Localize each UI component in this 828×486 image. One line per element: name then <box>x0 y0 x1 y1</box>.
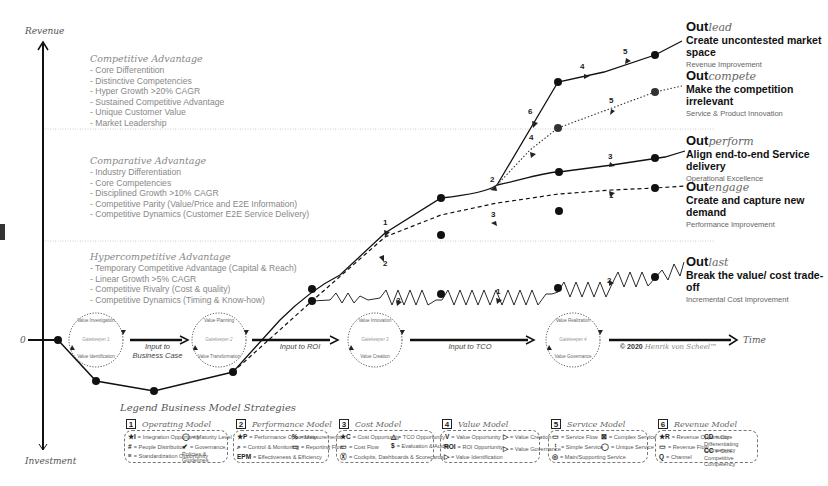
legend-item-text: = Value Opportunity <box>451 434 500 440</box>
people-icon: # <box>128 443 132 450</box>
value-creation-icon: ▷ <box>503 433 508 440</box>
marker-outlast-3: 3 <box>396 296 400 305</box>
flow-label-tco: Input to TCO <box>440 343 500 352</box>
strategy-headline: Make the competition irrelevant <box>686 84 828 107</box>
flow-label-business-case: Input to Business Case <box>130 343 185 360</box>
marker-outlead-4: 4 <box>580 62 584 71</box>
gatekeeper-center-label: Gatekeeper 1 <box>69 337 123 342</box>
marker-outcompete-5: 5 <box>609 96 613 105</box>
gatekeeper-top-label: Value Innovation <box>348 318 402 323</box>
marker-outcompete-4: 4 <box>529 133 533 142</box>
legend-number: 3 <box>339 419 349 429</box>
legend-item-text: = Main/Supporting Service <box>560 454 626 460</box>
core-competitive-icon: CC <box>704 447 713 454</box>
legend-number: 4 <box>442 419 452 429</box>
zone-item: Hyper Growth >20% CAGR <box>90 86 224 97</box>
marker-outlast-2: 2 <box>607 276 611 285</box>
zone-item: Competitive Dynamics (Timing & Know-how) <box>90 295 297 306</box>
zone-item: Core Differentition <box>90 65 224 76</box>
standardization-icon: ≡ <box>128 452 132 459</box>
legend-item-text: = Service Flow <box>561 434 598 440</box>
legend-item-text: = Governance, Policies & Guidelines <box>182 444 227 463</box>
zone-title: Hypercompetitive Advantage <box>90 251 297 262</box>
strategy-prefix: Out <box>686 254 708 269</box>
zone-item: Unique Customer Value <box>90 107 224 118</box>
revenue-opportunity-icon: ★R <box>659 433 670 440</box>
value-identification-icon: ▷ <box>444 453 449 460</box>
marker-outengage-2: 2 <box>383 259 387 268</box>
magnifier-icon: ⌕ <box>237 443 241 450</box>
core-differentiating-icon: CD <box>704 433 713 440</box>
unique-service-icon: ◯ <box>601 443 609 450</box>
legend-revenue-model-header: 6 Revenue Model <box>658 419 737 429</box>
zone-title: Competitive Advantage <box>90 53 224 64</box>
legend-item-text: = ROI Opportunity <box>458 444 503 450</box>
gatekeeper-bottom-label: Value Transformation <box>192 354 246 359</box>
zone-hypercompetitive-advantage: Hypercompetitive Advantage Temporary Com… <box>90 251 297 305</box>
value-governance-icon: ▷ <box>503 445 508 452</box>
gatekeeper-3: Value Innovation Gatekeeper 3 Value Crea… <box>348 313 402 367</box>
epm-icon: EPM <box>237 453 251 460</box>
legend-item-text: = People Distribution <box>134 444 186 450</box>
cost-flow-icon: ▭ <box>340 443 347 450</box>
zone-item: Distinctive Competencies <box>90 76 224 87</box>
strategy-note: Service & Product Innovation <box>686 109 828 118</box>
gatekeeper-4: Value Realization Gatekeeper 4 Value Gov… <box>546 313 600 367</box>
legend-number: 5 <box>551 419 561 429</box>
strategy-prefix: Out <box>686 19 708 34</box>
strategy-outlast: Outlast Break the value/ cost trade-off … <box>686 255 828 304</box>
legend-performance-model: ★P= Performance Opportunity ⌕= Control &… <box>233 430 329 463</box>
gatekeeper-center-label: Gatekeeper 2 <box>192 337 246 342</box>
gatekeeper-top-label: Value Planning <box>192 318 246 323</box>
strategy-outlead: Outlead Create uncontested market space … <box>686 20 828 69</box>
gatekeeper-bottom-label: Value Governance <box>546 354 600 359</box>
strategy-suffix: compete <box>708 70 756 83</box>
performance-icon: ★P <box>237 433 247 440</box>
complex-service-icon: ⊠ <box>601 433 607 440</box>
marker-outlead-6: 6 <box>528 107 532 116</box>
main-service-icon: ◎ <box>552 453 558 460</box>
zone-comparative-advantage: Comparative Advantage Industry Different… <box>90 155 309 220</box>
marker-outengage-1: 1 <box>609 191 613 200</box>
tco-icon: △ <box>391 433 396 440</box>
flow-label-roi: Input to ROI <box>270 343 330 352</box>
maturity-icon: ◯ <box>182 433 190 440</box>
gatekeeper-center-label: Gatekeeper 4 <box>546 337 600 342</box>
strategy-suffix: perform <box>708 135 753 148</box>
strategy-headline: Create uncontested market space <box>686 35 828 58</box>
gatekeeper-bottom-label: Value Creation <box>348 354 402 359</box>
dollar-icon: $ <box>391 442 395 449</box>
legend-service-model-header: 5 Service Model <box>551 419 625 429</box>
legend-model-name: Cost Model <box>355 420 401 429</box>
legend-item-text: = Control & Monitoring <box>243 444 299 450</box>
strategy-outperform: Outperform Align end-to-end Service deli… <box>686 134 828 183</box>
legend-model-name: Service Model <box>567 420 625 429</box>
gatekeeper-top-label: Value Investigation <box>69 318 123 323</box>
marker-outlead-2: 2 <box>490 175 494 184</box>
strategy-outcompete: Outcompete Make the competition irreleva… <box>686 69 828 118</box>
strategy-headline: Align end-to-end Service delivery <box>686 149 828 172</box>
copyright-author: Henrik von Scheel™ <box>645 343 717 351</box>
legend-model-name: Performance Model <box>252 420 332 429</box>
gatekeeper-2: Value Planning Gatekeeper 2 Value Transf… <box>192 313 246 367</box>
legend-model-name: Value Model <box>458 420 508 429</box>
legend-item-text: = Unique Service <box>611 444 654 450</box>
legend-model-name: Revenue Model <box>674 420 737 429</box>
strategy-prefix: Out <box>686 68 708 83</box>
legend-item-text: = TCO Opportunity <box>398 434 445 440</box>
legend-number: 2 <box>236 419 246 429</box>
integration-icon: ★I <box>128 433 136 440</box>
dashboard-icon: Ⓧ <box>340 453 347 460</box>
marker-outlast-1: 1 <box>496 287 500 296</box>
strategy-note: Performance Improvement <box>686 220 828 229</box>
copyright-mark: © 2020 <box>620 343 643 350</box>
simple-service-icon: ⋮ <box>552 443 559 450</box>
legend-value-model: V= Value Opportunity ROI= ROI Opportunit… <box>440 430 540 463</box>
gatekeeper-bottom-label: Value Identification <box>69 354 123 359</box>
legend-number: 1 <box>126 419 136 429</box>
legend-item-text: = Value Identification <box>451 454 503 460</box>
legend-item-text: = Cost Flow <box>349 444 379 450</box>
legend-item-text: = Maturity Level <box>192 434 232 440</box>
zone-item: Industry Differentiation <box>90 167 309 178</box>
strategy-headline: Break the value/ cost trade-off <box>686 270 828 293</box>
